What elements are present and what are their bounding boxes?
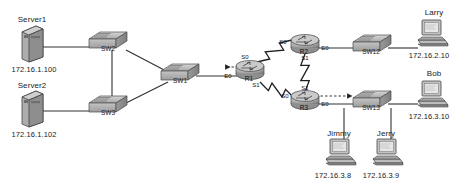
iflabel-r1-e0: E0 (224, 73, 231, 79)
label-larry-ip: 172.16.2.10 (409, 51, 450, 60)
label-server2-ip: 172.16.1.102 (12, 130, 57, 139)
label-bob-name: Bob (427, 69, 442, 78)
iflabel-r2-s1: S1 (301, 55, 308, 61)
server-icon (19, 89, 45, 129)
pc-icon (370, 137, 404, 167)
label-sw13: SW13 (362, 104, 380, 111)
label-sw3: SW3 (101, 109, 115, 116)
label-server1-name: Server1 (18, 15, 47, 24)
label-larry-name: Larry (425, 8, 444, 17)
iflabel-r3-s1: S1 (301, 85, 308, 91)
label-bob-ip: 172.16.3.10 (409, 112, 450, 121)
server-icon (19, 24, 45, 64)
pc-icon (415, 18, 449, 48)
label-sw1: SW1 (173, 77, 187, 84)
label-server1-ip: 172.16.1.100 (12, 65, 57, 74)
pc-icon (323, 137, 357, 167)
network-diagram: Server1 172.16.1.100 Server2 172.16.1.10… (0, 0, 465, 187)
label-r2: R2 (300, 48, 308, 55)
iflabel-r1-s1: S1 (252, 82, 259, 88)
pc-icon (415, 79, 449, 109)
label-sw12: SW12 (362, 48, 380, 55)
label-r3: R3 (300, 104, 308, 111)
iflabel-r2-e0: E0 (321, 45, 328, 51)
label-jimmy-name: Jimmy (327, 129, 351, 138)
iflabel-r1-s0: S0 (241, 54, 248, 60)
label-jerry-name: Jerry (377, 129, 395, 138)
iflabel-r2-s0: S0 (279, 39, 286, 45)
iflabel-r3-s0: S0 (281, 93, 288, 99)
label-sw2: SW2 (101, 45, 115, 52)
label-server2-name: Server2 (18, 81, 47, 90)
label-jerry-ip: 172.16.3.9 (363, 171, 399, 180)
label-r1: R1 (245, 75, 253, 82)
label-jimmy-ip: 172.16.3.8 (315, 171, 351, 180)
iflabel-r3-e0: E0 (321, 101, 328, 107)
